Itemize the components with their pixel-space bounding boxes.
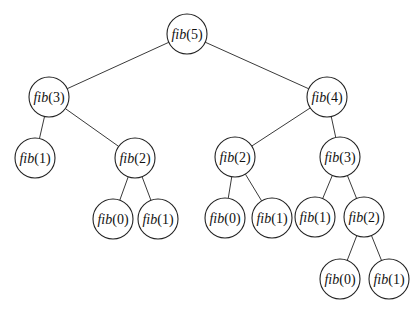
node-label: fib(3): [324, 150, 355, 166]
node-label: fib(1): [256, 211, 287, 227]
tree-node-fib-3: fib(3): [29, 77, 69, 117]
tree-node-fib-2: fib(2): [344, 197, 384, 237]
tree-edge: [67, 42, 169, 88]
tree-edge: [331, 117, 336, 138]
node-label: fib(5): [171, 27, 202, 43]
tree-node-fib-2: fib(2): [115, 138, 155, 178]
tree-node-fib-1: fib(1): [138, 199, 178, 239]
tree-edge: [228, 177, 232, 199]
tree-node-fib-0: fib(0): [205, 198, 245, 238]
node-label: fib(0): [324, 272, 355, 288]
node-label: fib(1): [19, 151, 50, 167]
node-label: fib(2): [219, 150, 250, 166]
tree-edge: [347, 236, 357, 261]
tree-node-fib-4: fib(4): [307, 77, 347, 117]
tree-edge: [252, 108, 310, 146]
node-label: fib(1): [142, 212, 173, 228]
tree-node-fib-0: fib(0): [93, 199, 133, 239]
node-label: fib(0): [209, 211, 240, 227]
tree-edge: [142, 177, 151, 201]
tree-node-fib-0: fib(0): [320, 259, 360, 299]
node-label: fib(0): [97, 212, 128, 228]
fibonacci-recursion-tree: fib(5)fib(3)fib(4)fib(1)fib(2)fib(2)fib(…: [0, 0, 420, 313]
tree-edge: [245, 174, 261, 201]
tree-edge: [371, 236, 381, 261]
node-label: fib(1): [373, 272, 404, 288]
tree-node-fib-1: fib(1): [369, 259, 409, 299]
tree-nodes: fib(5)fib(3)fib(4)fib(1)fib(2)fib(2)fib(…: [15, 14, 409, 299]
tree-edge: [39, 116, 44, 138]
tree-edge: [323, 175, 333, 198]
node-label: fib(2): [119, 151, 150, 167]
node-label: fib(1): [299, 210, 330, 226]
tree-edge: [347, 176, 356, 199]
tree-node-fib-5: fib(5): [167, 14, 207, 54]
tree-node-fib-1: fib(1): [252, 198, 292, 238]
tree-node-fib-1: fib(1): [15, 138, 55, 178]
node-label: fib(4): [311, 90, 342, 106]
node-label: fib(2): [348, 210, 379, 226]
tree-node-fib-2: fib(2): [215, 137, 255, 177]
tree-edge: [65, 109, 118, 147]
node-label: fib(3): [33, 90, 64, 106]
tree-node-fib-3: fib(3): [320, 137, 360, 177]
tree-edge: [205, 42, 309, 89]
tree-edge: [120, 177, 128, 200]
tree-node-fib-1: fib(1): [295, 197, 335, 237]
